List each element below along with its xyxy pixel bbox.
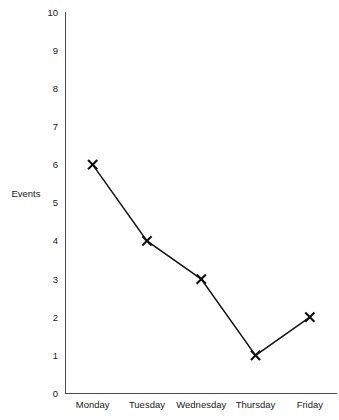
y-tick-label: 9 bbox=[53, 45, 58, 56]
x-tick-label: Monday bbox=[76, 399, 110, 410]
y-tick-label: 7 bbox=[53, 121, 58, 132]
line-chart: 012345678910 Events MondayTuesdayWednesd… bbox=[0, 0, 339, 420]
chart-canvas: 012345678910 Events MondayTuesdayWednesd… bbox=[0, 0, 339, 420]
x-tick-label: Wednesday bbox=[176, 399, 226, 410]
y-tick-label: 10 bbox=[47, 7, 58, 18]
y-tick-label: 5 bbox=[53, 197, 58, 208]
y-tick-label: 0 bbox=[53, 388, 58, 399]
chart-background bbox=[0, 0, 339, 420]
y-tick-label: 4 bbox=[53, 235, 58, 246]
y-axis-title: Events bbox=[11, 188, 40, 199]
x-tick-label: Tuesday bbox=[129, 399, 165, 410]
y-tick-label: 6 bbox=[53, 159, 58, 170]
y-tick-label: 3 bbox=[53, 274, 58, 285]
y-tick-label: 1 bbox=[53, 350, 58, 361]
x-tick-label: Friday bbox=[297, 399, 324, 410]
x-tick-label: Thursday bbox=[236, 399, 276, 410]
y-tick-label: 2 bbox=[53, 312, 58, 323]
y-tick-label: 8 bbox=[53, 83, 58, 94]
